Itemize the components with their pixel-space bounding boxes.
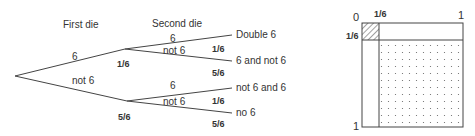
label-top-right: 1 (458, 9, 464, 21)
probability-figure: First die Second die 6 not 6 1/6 5/6 6 n… (0, 0, 475, 136)
outcome-6-not6: 6 and not 6 (236, 55, 286, 66)
label-left-split: 1/6 (346, 31, 359, 41)
second-branch-label-6a: 6 (170, 33, 176, 44)
first-prob-6: 1/6 (117, 59, 130, 69)
double-six-region (362, 23, 379, 40)
branch-first-not6 (15, 76, 127, 101)
second-prob-b1: 1/6 (212, 96, 225, 106)
tree-diagram: First die Second die 6 not 6 1/6 5/6 6 n… (15, 18, 286, 129)
label-origin: 0 (353, 11, 359, 23)
second-branch-label-not6a: not 6 (163, 45, 186, 56)
area-diagram: 0 1/6 1 1/6 1 (346, 9, 464, 132)
first-prob-not6: 5/6 (118, 112, 131, 122)
second-branch-label-not6b: not 6 (163, 96, 186, 107)
branch-first-6 (15, 49, 125, 76)
second-prob-a2: 5/6 (212, 68, 225, 78)
second-prob-a1: 1/6 (212, 44, 225, 54)
outcome-not6-6: not 6 and 6 (236, 82, 286, 93)
label-bottom-left: 1 (353, 120, 359, 132)
header-first-die: First die (63, 19, 99, 30)
first-branch-label-6: 6 (72, 51, 78, 62)
second-prob-b2: 5/6 (212, 119, 225, 129)
outcome-double-6: Double 6 (236, 29, 276, 40)
header-second-die: Second die (152, 18, 202, 29)
tree-branches (15, 35, 232, 113)
outcome-no-6: no 6 (236, 107, 256, 118)
label-top-split: 1/6 (374, 9, 387, 19)
first-branch-label-not6: not 6 (72, 75, 95, 86)
second-branch-label-6b: 6 (170, 80, 176, 91)
no-six-region (379, 40, 463, 127)
